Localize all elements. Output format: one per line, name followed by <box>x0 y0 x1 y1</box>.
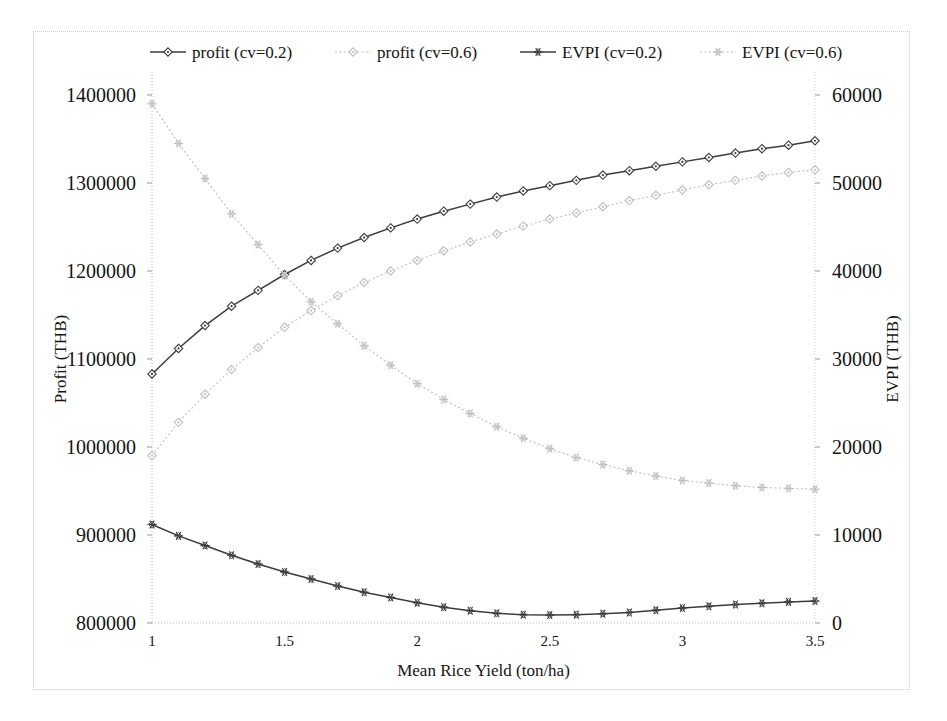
data-point-marker <box>811 137 819 145</box>
data-point-marker <box>678 186 686 194</box>
legend-item-4[interactable]: EVPI (cv=0.6) <box>700 43 842 62</box>
data-point-marker <box>704 479 713 487</box>
series-2 <box>148 166 819 460</box>
data-point-marker <box>598 461 607 469</box>
data-point-marker <box>333 244 341 252</box>
data-point-marker <box>333 291 341 299</box>
data-point-marker <box>466 200 474 208</box>
data-point-marker <box>731 601 740 609</box>
data-point-marker <box>492 423 501 431</box>
data-point-marker <box>349 48 357 56</box>
data-point-marker <box>307 575 316 583</box>
data-point-marker <box>705 153 713 161</box>
data-point-marker <box>439 395 448 403</box>
data-point-marker <box>254 286 262 294</box>
y2-axis-tick-label: 50000 <box>832 172 882 194</box>
data-point-marker <box>652 191 660 199</box>
data-point-marker <box>466 410 475 418</box>
data-point-marker <box>147 100 156 108</box>
data-point-marker <box>545 445 554 453</box>
data-point-marker <box>546 181 554 189</box>
data-point-marker <box>227 551 236 559</box>
data-point-marker <box>519 434 528 442</box>
y2-axis-tick-label: 40000 <box>832 260 882 282</box>
y2-axis-tick-label: 30000 <box>832 348 882 370</box>
data-point-marker <box>493 230 501 238</box>
data-point-marker <box>174 139 183 147</box>
data-point-marker <box>519 611 528 619</box>
data-point-marker <box>757 599 766 607</box>
data-point-marker <box>413 599 422 607</box>
data-point-marker <box>200 175 209 183</box>
data-point-marker <box>413 215 421 223</box>
data-point-marker <box>227 210 236 218</box>
data-point-marker <box>572 611 581 619</box>
data-point-marker <box>652 162 660 170</box>
data-point-marker <box>466 607 475 615</box>
y-axis-tick-label: 1300000 <box>66 172 136 194</box>
data-point-marker <box>784 484 793 492</box>
legend-item-2[interactable]: profit (cv=0.6) <box>335 43 477 62</box>
legend-item-1[interactable]: profit (cv=0.2) <box>150 43 292 62</box>
data-point-marker <box>599 171 607 179</box>
chart-figure: 8000009000001000000110000012000001300000… <box>0 0 947 721</box>
data-point-marker <box>758 172 766 180</box>
data-point-marker <box>174 532 183 540</box>
data-point-marker <box>625 196 633 204</box>
y2-axis-tick-label: 10000 <box>832 524 882 546</box>
y2-axis-title: EVPI (THB) <box>883 315 902 402</box>
legend-label: profit (cv=0.6) <box>377 43 477 62</box>
data-point-marker <box>253 560 262 568</box>
series-line <box>152 141 815 374</box>
y-axis-tick-label: 800000 <box>76 612 136 634</box>
data-point-marker <box>572 209 580 217</box>
data-point-marker <box>280 323 288 331</box>
chart-canvas: 8000009000001000000110000012000001300000… <box>0 0 947 721</box>
series-1 <box>148 137 819 379</box>
data-point-marker <box>253 241 262 249</box>
legend-label: profit (cv=0.2) <box>192 43 292 62</box>
data-point-marker <box>784 168 792 176</box>
data-point-marker <box>810 597 819 605</box>
series-3 <box>147 520 819 619</box>
data-point-marker <box>545 611 554 619</box>
data-point-marker <box>651 472 660 480</box>
data-point-marker <box>307 306 315 314</box>
data-point-marker <box>386 593 395 601</box>
y-axis-tick-label: 1400000 <box>66 84 136 106</box>
data-point-marker <box>466 238 474 246</box>
data-point-marker <box>492 609 501 617</box>
series-line <box>152 524 815 615</box>
data-point-marker <box>333 582 342 590</box>
data-point-marker <box>200 542 209 550</box>
y-axis-tick-label: 1100000 <box>67 348 136 370</box>
data-point-marker <box>519 187 527 195</box>
data-point-marker <box>413 256 421 264</box>
data-point-marker <box>625 166 633 174</box>
data-point-marker <box>254 343 262 351</box>
data-point-marker <box>572 176 580 184</box>
data-point-marker <box>678 604 687 612</box>
y-axis-title: Profit (THB) <box>51 315 70 403</box>
data-point-marker <box>599 203 607 211</box>
data-point-marker <box>784 141 792 149</box>
x-axis-tick-label: 2.5 <box>540 633 559 649</box>
data-point-marker <box>625 467 634 475</box>
data-point-marker <box>704 602 713 610</box>
data-point-marker <box>533 48 542 56</box>
data-point-marker <box>439 603 448 611</box>
data-point-marker <box>811 166 819 174</box>
data-point-marker <box>440 247 448 255</box>
legend-label: EVPI (cv=0.2) <box>562 43 662 62</box>
data-point-marker <box>148 452 156 460</box>
data-point-marker <box>731 176 739 184</box>
data-point-marker <box>758 144 766 152</box>
data-point-marker <box>227 365 235 373</box>
data-point-marker <box>731 482 740 490</box>
x-axis-tick-label: 2 <box>413 633 421 649</box>
series-line <box>152 170 815 456</box>
data-point-marker <box>307 298 316 306</box>
data-point-marker <box>572 454 581 462</box>
legend-item-3[interactable]: EVPI (cv=0.2) <box>520 43 662 62</box>
y-axis-tick-label: 1000000 <box>66 436 136 458</box>
